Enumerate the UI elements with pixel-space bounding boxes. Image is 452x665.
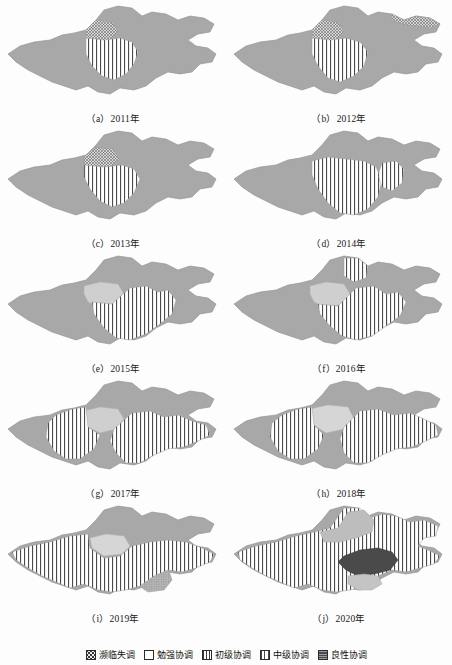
map-panel-grid: （a）2011年 (0, 2, 452, 627)
map-image-2020 (226, 502, 452, 606)
map-panel-2020[interactable]: （j）2020年 (226, 502, 452, 627)
panel-caption: （e）2015年 (0, 363, 226, 375)
legend-swatch-solid-dark-icon (318, 650, 328, 660)
legend-item-3[interactable]: 中级协调 (260, 649, 309, 661)
legend-label: 初级协调 (215, 649, 251, 661)
figure-container: （a）2011年 (0, 0, 452, 665)
legend-swatch-vertical-lines-icon (202, 650, 212, 660)
map-panel-2015[interactable]: （e）2015年 (0, 252, 226, 377)
map-panel-2019[interactable]: （i）2019年 (0, 502, 226, 627)
panel-caption: （g）2017年 (0, 488, 226, 500)
map-image-2012 (226, 2, 452, 106)
legend-label: 濒临失调 (99, 649, 135, 661)
map-image-2019 (0, 502, 226, 606)
map-panel-2017[interactable]: （g）2017年 (0, 377, 226, 502)
panel-caption: （a）2011年 (0, 113, 226, 125)
panel-caption: （d）2014年 (226, 238, 452, 250)
map-image-2016 (226, 252, 452, 356)
map-panel-2014[interactable]: （d）2014年 (226, 127, 452, 252)
map-image-2014 (226, 127, 452, 231)
region-vertical-2018-east (340, 409, 438, 463)
region-vertical-2016-north (344, 258, 368, 282)
map-panel-2013[interactable]: （c）2013年 (0, 127, 226, 252)
map-panel-2012[interactable]: （b）2012年 (226, 2, 452, 127)
legend-item-1[interactable]: 勉强协调 (144, 649, 193, 661)
legend-swatch-vertical-lines-wide-icon (260, 650, 270, 660)
map-image-2015 (0, 252, 226, 356)
panel-caption: （j）2020年 (226, 613, 452, 625)
legend-label: 良性协调 (331, 649, 367, 661)
legend-label: 勉强协调 (157, 649, 193, 661)
panel-caption: （h）2018年 (226, 488, 452, 500)
legend-label: 中级协调 (273, 649, 309, 661)
legend: 濒临失调 勉强协调 初级协调 中级协调 良性协调 (0, 649, 452, 661)
map-panel-2018[interactable]: （h）2018年 (226, 377, 452, 502)
map-image-2011 (0, 2, 226, 106)
legend-item-0[interactable]: 濒临失调 (86, 649, 135, 661)
legend-item-4[interactable]: 良性协调 (318, 649, 367, 661)
panel-caption: （b）2012年 (226, 113, 452, 125)
map-image-2017 (0, 377, 226, 481)
map-panel-2011[interactable]: （a）2011年 (0, 2, 226, 127)
legend-swatch-blank-icon (144, 650, 154, 660)
map-image-2018 (226, 377, 452, 481)
panel-caption: （f）2016年 (226, 363, 452, 375)
panel-caption: （i）2019年 (0, 613, 226, 625)
panel-caption: （c）2013年 (0, 238, 226, 250)
legend-swatch-cross-hatch-icon (86, 650, 96, 660)
legend-item-2[interactable]: 初级协调 (202, 649, 251, 661)
map-image-2013 (0, 127, 226, 231)
map-panel-2016[interactable]: （f）2016年 (226, 252, 452, 377)
